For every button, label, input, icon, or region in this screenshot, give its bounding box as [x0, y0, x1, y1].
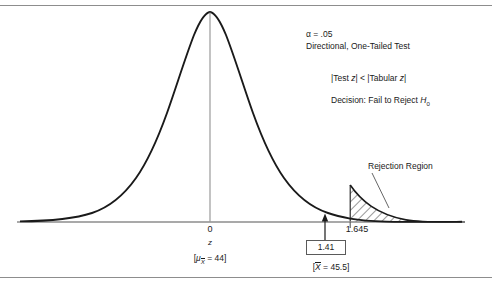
axis-variable-label: z [190, 238, 230, 247]
null-hypothesis-subscript: 0 [426, 100, 429, 107]
test-statistic-arrow [322, 214, 328, 241]
population-mean-label: [μX = 44] [165, 253, 255, 265]
alpha-value: α = .05 [306, 28, 410, 40]
decision-annotation: |Test z| < |Tabular z| Decision: Fail to… [331, 72, 430, 109]
rejection-region-shading [350, 185, 465, 222]
xbar-value: = 45.5] [321, 262, 350, 272]
test-type-label: Directional, One-Tailed Test [306, 40, 410, 52]
rejection-region-label: Rejection Region [368, 160, 433, 172]
decision-statement: Decision: Fail to Reject H0 [331, 94, 430, 109]
comparison-middle: | < |Tabular [355, 73, 399, 83]
rejection-region-leader-line [372, 173, 389, 208]
comparison-suffix: | [404, 73, 406, 83]
distribution-plot [0, 0, 492, 286]
comparison-expression: |Test z| < |Tabular z| [331, 72, 430, 84]
critical-value-label: 1.645 [337, 224, 377, 234]
decision-prefix: Decision: Fail to Reject [331, 95, 420, 105]
sample-mean-label: [X = 45.5] [296, 262, 366, 272]
comparison-prefix: |Test [331, 73, 351, 83]
alpha-annotation: α = .05 Directional, One-Tailed Test [306, 28, 410, 53]
test-statistic-box: 1.41 [306, 240, 346, 255]
normal-distribution-figure: α = .05 Directional, One-Tailed Test |Te… [0, 0, 492, 286]
axis-zero-label: 0 [190, 224, 230, 234]
mu-value: = 44] [205, 253, 227, 263]
